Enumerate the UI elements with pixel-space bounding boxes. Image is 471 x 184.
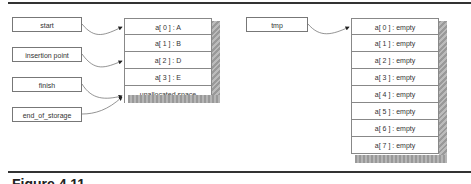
figure-caption: Figure 4.11 [12,176,85,184]
pointer-arrows [0,0,471,184]
arrow-end-of-storage [82,97,122,114]
arrow-tmp [308,24,349,34]
bottom-rule [8,171,471,173]
arrow-start [82,24,122,35]
arrow-finish [82,84,122,98]
arrow-insertion-point [82,54,122,67]
